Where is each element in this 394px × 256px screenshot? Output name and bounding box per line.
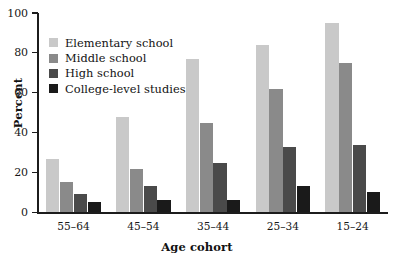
x-axis-tick-label: 45–54: [108, 221, 178, 232]
legend-item: College-level studies: [49, 81, 186, 96]
legend-swatch-icon: [49, 54, 58, 63]
bar: [186, 59, 199, 213]
x-axis-tick-label: 35–44: [178, 221, 248, 232]
y-axis-tick-label: 0: [0, 207, 28, 218]
bar: [367, 192, 380, 212]
bar: [339, 63, 352, 213]
bar-chart: 020406080100 Percent 55–6445–5435–4425–3…: [0, 0, 394, 256]
chart-legend: Elementary schoolMiddle schoolHigh schoo…: [49, 35, 186, 97]
x-axis-tick-label: 55–64: [39, 221, 109, 232]
y-axis-tick: [32, 172, 38, 173]
bar: [269, 89, 282, 213]
bar: [297, 186, 310, 212]
bar: [60, 182, 73, 212]
legend-swatch-icon: [49, 69, 58, 78]
bar: [74, 194, 87, 212]
bar: [116, 117, 129, 213]
y-axis-tick-label: 20: [0, 167, 28, 178]
bar: [88, 202, 101, 212]
legend-item: High school: [49, 66, 186, 81]
x-axis-tick-label: 15–24: [318, 221, 388, 232]
bar: [353, 145, 366, 213]
x-axis-title: Age cohort: [0, 240, 394, 254]
y-axis-tick: [32, 92, 38, 93]
y-axis-tick-label: 100: [0, 8, 28, 19]
legend-item: Elementary school: [49, 35, 186, 50]
bar: [283, 147, 296, 213]
x-axis-line: [37, 212, 388, 214]
legend-item-label: High school: [65, 67, 134, 79]
legend-item-label: Elementary school: [65, 37, 173, 49]
legend-item-label: College-level studies: [65, 83, 186, 95]
y-axis-tick-label: 80: [0, 47, 28, 58]
bar: [200, 123, 213, 213]
bar-group: [248, 13, 318, 212]
y-axis-tick: [32, 12, 38, 13]
x-axis-tick-label: 25–34: [248, 221, 318, 232]
y-axis-tick: [32, 132, 38, 133]
y-axis-tick: [32, 52, 38, 53]
bar: [213, 163, 226, 213]
bar: [46, 159, 59, 213]
y-axis-title: Percent: [11, 63, 25, 143]
bar: [256, 45, 269, 212]
bar: [157, 200, 170, 212]
bar: [325, 23, 338, 212]
legend-swatch-icon: [49, 38, 58, 47]
bar-group: [178, 13, 248, 212]
bar-group: [318, 13, 388, 212]
bar: [130, 169, 143, 213]
legend-swatch-icon: [49, 84, 58, 93]
legend-item: Middle school: [49, 50, 186, 65]
bar: [227, 200, 240, 212]
legend-item-label: Middle school: [65, 52, 146, 64]
bar: [144, 186, 157, 212]
